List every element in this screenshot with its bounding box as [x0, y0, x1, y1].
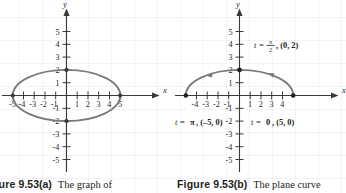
direction-arrow-right-b	[267, 73, 274, 78]
axis-label-x-a: x	[162, 85, 167, 95]
axis-label-y-a: y	[62, 0, 67, 9]
y-axis-a	[63, 9, 69, 173]
y-tick-label-b-0: 5	[229, 28, 233, 37]
annotation-left-point: , (–5, 0)	[196, 118, 223, 127]
y-tick-label-b-5: -1	[226, 104, 233, 113]
annotation-left-t: t =	[175, 118, 185, 127]
annotation-right-t: t =	[251, 118, 261, 127]
x-tick-label-b-5: 2	[259, 100, 263, 109]
x-tick-label-b-4: 1	[248, 100, 252, 109]
y-tick-label-a-5: -1	[53, 104, 60, 113]
x-tick-label-a-6: 2	[86, 100, 90, 109]
annotation-right-value: 0	[266, 118, 270, 127]
coordinate-plot-a: x y	[0, 0, 173, 172]
y-tick-label-a-4: 1	[56, 79, 60, 88]
x-tick-label-b-2: -2	[213, 100, 220, 109]
annotation-top-t: t =	[254, 41, 264, 50]
figure-caption-b: Figure9.53(b)The plane curve	[173, 176, 346, 192]
y-tick-label-b-1: 4	[229, 40, 233, 49]
annotation-t-zero: t = 0 , (5, 0)	[251, 118, 295, 127]
caption-figure-number-b: 9.53(b)	[213, 178, 247, 190]
plot-area-b: x y	[173, 0, 346, 172]
figure-panels: x y	[0, 0, 346, 193]
y-axis-b	[236, 9, 242, 173]
x-tick-label-a-7: 3	[97, 100, 101, 109]
y-tick-label-b-7: -3	[226, 130, 233, 139]
caption-figure-text-a: The graph of	[58, 179, 112, 190]
y-tick-label-b-8: -4	[226, 143, 233, 152]
annotation-t-pi: t = π , (–5, 0)	[175, 118, 223, 127]
x-tick-label-a-8: 4	[107, 100, 111, 109]
figure-panel-b: x y	[173, 0, 346, 193]
x-tick-label-b-7: 4	[280, 100, 284, 109]
x-axis-b	[175, 92, 339, 98]
x-tick-label-a-3: -2	[40, 100, 47, 109]
x-axis-a	[2, 92, 160, 98]
y-tick-label-b-6: -2	[226, 117, 233, 126]
annotation-right-point: , (5, 0)	[272, 118, 295, 127]
figure-panel-a: x y	[0, 0, 173, 193]
y-tick-label-a-9: -5	[53, 156, 60, 165]
y-tick-label-b-9: -5	[226, 156, 233, 165]
axis-label-y-b: y	[235, 0, 240, 9]
plot-area-a: x y	[0, 0, 173, 172]
x-tick-label-a-2: -3	[29, 100, 36, 109]
y-tick-label-a-8: -4	[53, 143, 60, 152]
y-tick-label-a-2: 3	[56, 53, 60, 62]
annotation-t-pi-over-2: t = π 2 , (0, 2)	[254, 39, 299, 53]
y-tick-label-b-4: 1	[229, 79, 233, 88]
y-tick-label-a-0: 5	[56, 28, 60, 37]
caption-figure-word-a: gure	[0, 178, 16, 190]
coordinate-plot-b: x y	[173, 0, 346, 172]
annotation-top-denominator: 2	[269, 47, 272, 53]
caption-figure-text-b: The plane curve	[253, 179, 321, 190]
y-tick-label-b-2: 3	[229, 53, 233, 62]
annotation-top-numerator: π	[269, 39, 272, 45]
x-tick-label-a-5: 1	[75, 100, 79, 109]
x-tick-label-b-0: -4	[192, 100, 199, 109]
x-tick-label-b-1: -3	[202, 100, 209, 109]
caption-figure-number-a: 9.53(a)	[19, 178, 52, 190]
y-tick-label-a-7: -3	[53, 130, 60, 139]
caption-figure-word-b: Figure	[177, 178, 210, 190]
annotation-top-point: , (0, 2)	[276, 41, 299, 50]
x-tick-label-b-6: 3	[270, 100, 274, 109]
y-tick-label-a-1: 4	[56, 40, 60, 49]
annotation-left-value: π	[190, 118, 195, 127]
figure-caption-a: gure9.53(a)The graph of	[0, 176, 173, 192]
axis-label-x-b: x	[341, 85, 346, 95]
